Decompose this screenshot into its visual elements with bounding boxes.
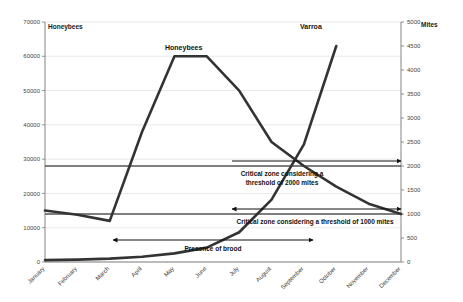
left-tick-label: 10000: [23, 225, 40, 231]
right-tick-label: 4000: [407, 67, 421, 73]
right-tick-label: 2000: [407, 163, 421, 169]
right-tick-label: 3500: [407, 91, 421, 97]
presence-of-brood-label: Presence of brood: [184, 245, 241, 252]
critical-zone-2000-label-line1: Critical zone considering a: [241, 170, 324, 178]
chart-background: [0, 0, 463, 302]
left-tick-label: 40000: [23, 122, 40, 128]
left-axis-title: Honeybees: [48, 23, 83, 31]
right-tick-label: 1500: [407, 187, 421, 193]
honeybees-series-label: Honeybees: [165, 44, 202, 52]
left-tick-label: 60000: [23, 53, 40, 59]
honeybee-varroa-line-chart: 010000200003000040000500006000070000 050…: [0, 0, 463, 302]
right-tick-label: 3000: [407, 115, 421, 121]
right-tick-label: 4500: [407, 43, 421, 49]
right-tick-label: 1000: [407, 211, 421, 217]
right-tick-label: 5000: [407, 19, 421, 25]
right-tick-label: 2500: [407, 139, 421, 145]
left-tick-label: 20000: [23, 191, 40, 197]
critical-zone-2000-label-line2: threshold of 2000 mites: [246, 179, 319, 186]
right-tick-label: 500: [407, 235, 418, 241]
left-tick-label: 50000: [23, 88, 40, 94]
chart-container: 010000200003000040000500006000070000 050…: [0, 0, 463, 302]
left-tick-label: 30000: [23, 156, 40, 162]
left-tick-label: 70000: [23, 19, 40, 25]
critical-zone-1000-label: Critical zone considering a threshold of…: [236, 218, 394, 226]
varroa-series-label: Varroa: [300, 23, 322, 30]
right-axis-title: Mites: [421, 21, 438, 28]
